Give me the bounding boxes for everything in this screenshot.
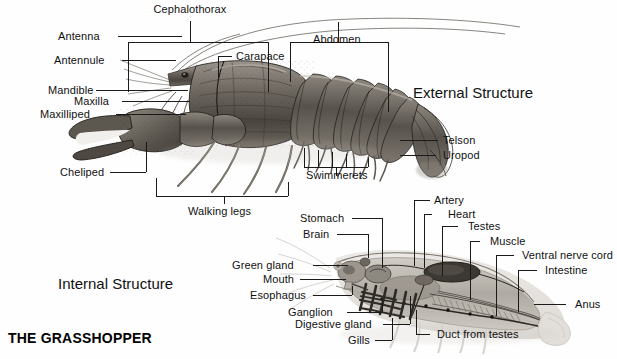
heading-external-structure: External Structure <box>413 84 533 101</box>
label-digestive-gland: Digestive gland <box>295 318 372 330</box>
label-esophagus: Esophagus <box>250 289 306 301</box>
label-ganglion: Ganglion <box>288 306 333 318</box>
label-cephalothorax: Cephalothorax <box>154 3 227 15</box>
label-intestine: Intestine <box>545 264 587 276</box>
label-carapace: Carapace <box>236 50 285 62</box>
label-maxilla: Maxilla <box>74 95 109 107</box>
label-ventral-nerve-cord: Ventral nerve cord <box>522 249 613 261</box>
label-artery: Artery <box>434 194 464 206</box>
label-antennule: Antennule <box>54 54 104 66</box>
heading-internal-structure: Internal Structure <box>58 275 173 292</box>
label-gills: Gills <box>348 334 370 346</box>
label-muscle: Muscle <box>490 235 525 247</box>
label-green-gland: Green gland <box>232 259 294 271</box>
label-swimmerets: Swimmerets <box>306 169 368 181</box>
external-crayfish-art <box>69 18 520 194</box>
label-duct-from-testes: Duct from testes <box>437 328 519 340</box>
label-maxilliped: Maxilliped <box>40 108 90 120</box>
label-testes: Testes <box>468 220 500 232</box>
label-brain: Brain <box>303 228 329 240</box>
label-cheliped: Cheliped <box>60 166 104 178</box>
label-anus: Anus <box>575 298 600 310</box>
label-uropod: Uropod <box>443 149 480 161</box>
label-walking-legs: Walking legs <box>188 205 251 217</box>
label-heart: Heart <box>448 208 475 220</box>
label-mouth: Mouth <box>263 273 294 285</box>
label-abdomen: Abdomen <box>313 33 361 45</box>
crayfish-anatomy-figure: Cephalothorax Antenna Antennule Carapace… <box>0 0 617 359</box>
label-telson: Telson <box>443 134 475 146</box>
label-stomach: Stomach <box>300 212 344 224</box>
footer-title: THE GRASSHOPPER <box>8 330 152 346</box>
label-antenna: Antenna <box>58 30 100 42</box>
